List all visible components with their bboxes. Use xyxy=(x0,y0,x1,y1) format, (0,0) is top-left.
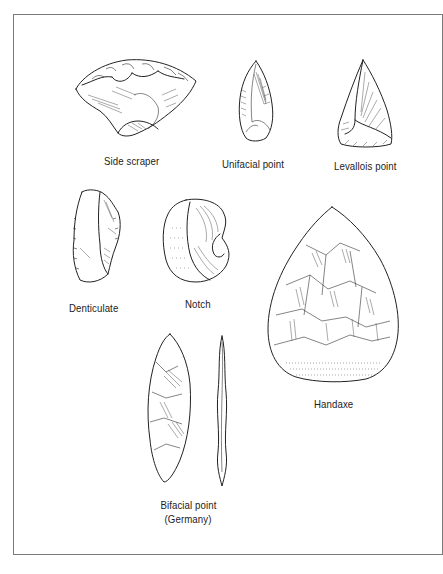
unifacial-point-label: Unifacial point xyxy=(222,158,284,170)
denticulate-illustration xyxy=(70,188,126,288)
side-scraper-illustration xyxy=(72,55,202,145)
handaxe-illustration xyxy=(266,205,402,385)
levallois-point-illustration xyxy=(333,58,395,150)
bifacial-point-label-line1: Bifacial point xyxy=(160,499,215,511)
notch-illustration xyxy=(162,198,232,284)
bifacial-point-illustration xyxy=(144,332,234,486)
handaxe-label: Handaxe xyxy=(314,398,353,410)
notch-label: Notch xyxy=(185,298,211,310)
bifacial-point-label-line2: (Germany) xyxy=(160,513,215,525)
side-scraper-label: Side scraper xyxy=(104,155,159,167)
unifacial-point-illustration xyxy=(236,60,276,142)
levallois-point-label: Levallois point xyxy=(334,160,397,172)
denticulate-label: Denticulate xyxy=(69,302,118,314)
